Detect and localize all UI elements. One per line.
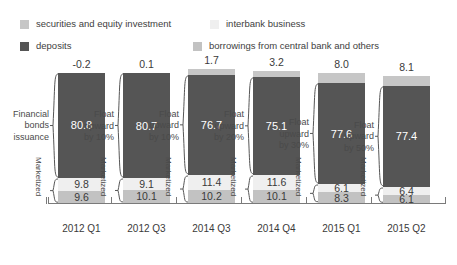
marketized-label: Marketized: [294, 157, 303, 196]
bar-top-value: 8.1: [377, 62, 436, 73]
brace-marketized: [375, 187, 384, 203]
legend-item-deposits: deposits: [20, 41, 71, 51]
legend-item-securities: securities and equity investment: [20, 19, 171, 29]
bar-annotation-line: Float: [257, 117, 309, 129]
brace-marketized: [115, 178, 124, 203]
segment-borrowings-value: 8.3: [318, 192, 365, 203]
segment-interbank-value: 11.6: [253, 177, 300, 188]
segment-interbank[interactable]: 9.8: [58, 178, 105, 191]
bar-annotation-line: Financial: [0, 109, 49, 121]
bar-top-value: 8.0: [312, 59, 371, 70]
legend-swatch-interbank: [210, 20, 219, 29]
bar-annotation-line: Float: [192, 109, 244, 121]
legend-swatch-borrowings: [193, 42, 202, 51]
segment-borrowings-value: 6.1: [383, 194, 430, 205]
bar-annotation-line: Float: [62, 109, 114, 121]
segment-borrowings[interactable]: 9.6: [58, 191, 105, 203]
bar-annotation-line: upward: [257, 129, 309, 141]
segment-interbank[interactable]: 11.4: [188, 175, 235, 190]
bar-annotation-text: Floatupwardby 10%: [127, 109, 179, 144]
brace-deposits: [310, 83, 319, 184]
legend-label-securities: securities and equity investment: [36, 19, 171, 29]
segment-interbank[interactable]: 11.6: [253, 175, 300, 190]
segment-borrowings[interactable]: 6.1: [383, 195, 430, 203]
marketized-label: Marketized: [359, 157, 368, 196]
bar-annotation-text: Floatupwardby 10%: [62, 109, 114, 144]
brace-marketized: [180, 175, 189, 203]
legend-swatch-deposits: [20, 42, 29, 51]
segment-interbank-value: 9.1: [123, 178, 170, 189]
brace-deposits: [50, 73, 59, 178]
segment-deposits[interactable]: 77.4: [383, 86, 430, 187]
x-axis-tick: [111, 197, 112, 204]
plot-area: -0.280.89.89.60.180.79.110.11.776.711.41…: [0, 60, 457, 265]
segment-borrowings[interactable]: 8.3: [318, 192, 365, 203]
x-axis-left-cap: [48, 197, 49, 204]
brace-marketized: [245, 175, 254, 203]
segment-borrowings-value: 10.1: [253, 191, 300, 202]
x-axis-tick: [46, 197, 47, 204]
bar-annotation-line: issuance: [0, 132, 49, 144]
segment-borrowings-value: 10.1: [123, 191, 170, 202]
bar-annotation-text: Financialbondsissuance: [0, 109, 49, 144]
brace-deposits: [180, 75, 189, 175]
bar-annotation-line: Float: [127, 109, 179, 121]
marketized-label: Marketized: [99, 157, 108, 196]
bar-annotation-text: Floatupwardby 30%: [257, 117, 309, 152]
segment-deposits-value: 77.4: [383, 131, 430, 142]
brace-deposits: [245, 77, 254, 175]
legend-label-interbank: interbank business: [226, 19, 305, 29]
bar-annotation-line: upward: [322, 131, 374, 143]
bar-annotation-text: Floatupwardby 50%: [322, 120, 374, 155]
bar-annotation-line: by 10%: [62, 132, 114, 144]
brace-deposits: [115, 73, 124, 178]
marketized-label: Marketized: [229, 157, 238, 196]
segment-borrowings[interactable]: 10.2: [188, 190, 235, 203]
bar-annotation-line: upward: [62, 121, 114, 133]
bar-annotation-line: by 20%: [192, 132, 244, 144]
x-axis-tick: [371, 197, 372, 204]
segment-borrowings-value: 10.2: [188, 191, 235, 202]
legend-item-borrowings: borrowings from central bank and others: [193, 41, 379, 51]
x-axis-tick: [241, 197, 242, 204]
brace-marketized: [310, 184, 319, 203]
bar-group[interactable]: 8.177.46.46.1: [383, 76, 430, 203]
marketized-label: Marketized: [34, 157, 43, 196]
segment-securities[interactable]: [383, 76, 430, 87]
segment-borrowings[interactable]: 10.1: [123, 190, 170, 203]
bar-annotation-line: bonds: [0, 120, 49, 132]
x-axis-tick: [176, 197, 177, 204]
brace-deposits: [375, 86, 384, 187]
x-tick-label: 2015 Q2: [367, 223, 447, 234]
bar-annotation-line: by 10%: [127, 132, 179, 144]
segment-interbank-value: 9.8: [58, 179, 105, 190]
chart-legend: securities and equity investment interba…: [0, 8, 457, 56]
bar-top-value: 3.2: [247, 57, 306, 68]
bar-annotation-line: by 50%: [322, 143, 374, 155]
bar-top-value: 0.1: [117, 59, 176, 70]
segment-borrowings[interactable]: 10.1: [253, 190, 300, 203]
bar-annotation-line: by 30%: [257, 140, 309, 152]
chart-root: securities and equity investment interba…: [0, 0, 457, 265]
x-axis-tick: [306, 197, 307, 204]
legend-swatch-securities: [20, 20, 29, 29]
x-axis-right-cap: [445, 197, 446, 204]
bar-top-value: 1.7: [182, 55, 241, 66]
segment-securities[interactable]: [318, 73, 365, 83]
segment-interbank-value: 11.4: [188, 177, 235, 188]
bar-annotation-line: Float: [322, 120, 374, 132]
segment-borrowings-value: 9.6: [58, 191, 105, 202]
legend-item-interbank: interbank business: [210, 19, 305, 29]
brace-marketized: [50, 178, 59, 203]
marketized-label: Marketized: [164, 157, 173, 196]
bar-annotation-line: upward: [192, 121, 244, 133]
bar-top-value: -0.2: [52, 59, 111, 70]
bar-annotation-line: upward: [127, 120, 179, 132]
bar-annotation-text: Floatupwardby 20%: [192, 109, 244, 144]
legend-label-borrowings: borrowings from central bank and others: [209, 41, 379, 51]
segment-interbank[interactable]: 9.1: [123, 178, 170, 190]
legend-label-deposits: deposits: [36, 41, 71, 51]
